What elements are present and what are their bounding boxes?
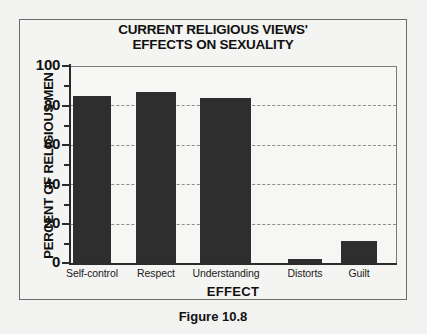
- x-tick-label-guilt: Guilt: [337, 267, 381, 279]
- x-axis-title: EFFECT: [70, 284, 396, 299]
- bar-distorts: [288, 259, 322, 263]
- bar-guilt: [341, 241, 377, 263]
- bar-respect: [136, 92, 176, 263]
- bar-understanding: [200, 98, 251, 263]
- bar-self-control: [73, 96, 111, 263]
- bars-layer: [0, 0, 427, 263]
- y-axis-title: PERCENT OF RELIGIOUS MEN: [41, 56, 56, 276]
- figure-page: CURRENT RELIGIOUS VIEWS' EFFECTS ON SEXU…: [0, 0, 427, 334]
- x-tick-label-understanding: Understanding: [189, 267, 263, 279]
- x-tick-label-respect: Respect: [128, 267, 184, 279]
- x-axis-line: [69, 263, 397, 265]
- figure-caption: Figure 10.8: [19, 309, 407, 324]
- x-tick-label-self-control: Self-control: [62, 267, 122, 279]
- x-tick-label-distorts: Distorts: [278, 267, 332, 279]
